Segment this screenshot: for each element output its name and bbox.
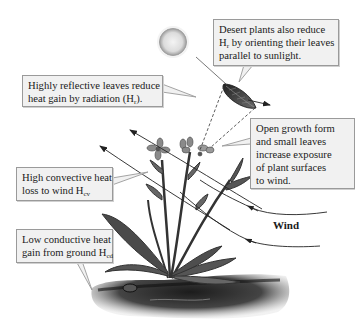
callout-text: and small leaves: [256, 135, 349, 148]
flower-icon: [198, 145, 214, 156]
callout-open-growth: Open growth form and small leaves increa…: [250, 118, 355, 189]
callout-conductive-heat: Low conductive heat gain from ground Hcd: [16, 229, 113, 263]
diagram-canvas: Desert plants also reduce Hr by orientin…: [0, 0, 355, 328]
callout-text: Hr by orienting their leaves: [219, 36, 333, 49]
callout-text: heat gain by radiation (Hr).: [28, 92, 157, 105]
callout-text: Desert plants also reduce: [219, 23, 333, 36]
callout-text: Low conductive heat: [22, 233, 107, 246]
flower-icon: [147, 138, 170, 160]
callout-text: to wind.: [256, 174, 349, 187]
callout-desert-orientation: Desert plants also reduce Hr by orientin…: [213, 19, 339, 66]
callout-text: Open growth form: [256, 122, 349, 135]
wind-label: Wind: [273, 219, 299, 231]
heat-symbol: H: [126, 93, 134, 104]
callout-text: gain from ground Hcd: [22, 246, 107, 259]
sun-icon: [157, 26, 189, 58]
oriented-leaf-illustration: [223, 84, 270, 108]
callout-text: loss to wind Hcv: [22, 184, 107, 197]
heat-symbol: H: [76, 185, 84, 196]
callout-convective-heat: High convective heat loss to wind Hcv: [16, 167, 113, 201]
callout-text: High convective heat: [22, 171, 107, 184]
callout-text: Highly reflective leaves reduce: [28, 79, 157, 92]
callout-text: parallel to sunlight.: [219, 49, 333, 62]
plant-illustration: [102, 137, 252, 284]
callout-text: of plant surfaces: [256, 161, 349, 174]
callout-reflective-leaves: Highly reflective leaves reduce heat gai…: [22, 75, 163, 107]
callout-text: increase exposure: [256, 148, 349, 161]
heat-symbol: H: [219, 37, 227, 48]
flower-icon: [180, 137, 193, 153]
dashed-guide-line: [200, 86, 224, 150]
